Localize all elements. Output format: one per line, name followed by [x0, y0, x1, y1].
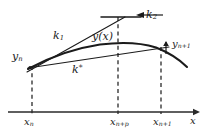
- label-k2: k2: [146, 9, 157, 21]
- x-axis-group: [8, 109, 200, 115]
- slope-line-k-star: [28, 47, 169, 68]
- marker-dot-yn: [28, 66, 31, 69]
- label-x-axis: x: [190, 116, 196, 126]
- label-solution-curve: y(x): [92, 31, 113, 42]
- figure-container: k1 k2 k* y(x) yn yn+1 xn xn+p xn+1 x: [0, 0, 203, 139]
- label-xn1: xn+1: [153, 117, 172, 127]
- label-xn: xn: [24, 117, 34, 127]
- label-yn: yn: [12, 51, 23, 63]
- label-xnp: xn+p: [110, 117, 129, 127]
- marker-arrowhead-yn1: [163, 41, 169, 46]
- label-k-star: k*: [72, 64, 83, 75]
- label-yn1: yn+1: [172, 39, 191, 49]
- label-k1: k1: [53, 30, 64, 42]
